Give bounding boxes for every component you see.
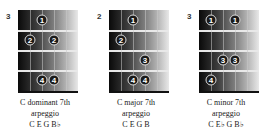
chord-subtitle: arpeggio [0,108,90,119]
arpeggio-diagram: 2 12344 C major 7th arpeggio C E G B [91,0,181,137]
string-line [121,10,122,91]
fret-line [199,70,259,72]
chord-title: C major 7th [91,97,181,108]
fret-line [109,30,169,32]
fret-number-label: 2 [97,12,101,21]
fret-line [199,50,259,52]
string-line [30,10,31,91]
finger-dot: 4 [49,75,60,86]
finger-dot: 1 [230,15,241,26]
chord-title: C dominant 7th [0,97,90,108]
fret-line [18,30,78,32]
string-line [157,10,158,91]
finger-dot: 4 [128,75,139,86]
finger-dot: 2 [25,35,36,46]
string-line [66,10,67,91]
chord-notes: C E G B [91,119,181,130]
fretboard-edge [109,91,169,93]
finger-dot: 4 [140,75,151,86]
fret-line [109,70,169,72]
finger-dot: 3 [140,55,151,66]
diagram-caption: C major 7th arpeggio C E G B [91,97,181,130]
finger-dot: 1 [128,15,139,26]
string-line [223,10,224,91]
string-line [247,10,248,91]
finger-dot: 3 [230,55,241,66]
fretboard: 12244 [18,10,78,91]
fretboard: 11334 [199,10,259,91]
fret-line [109,50,169,52]
chord-title: C minor 7th [181,97,271,108]
arpeggio-diagram: 3 12244 C dominant 7th arpeggio C E G B♭ [0,0,90,137]
fret-number-label: 3 [6,12,10,21]
finger-dot: 1 [206,15,217,26]
arpeggio-diagram: 3 11334 C minor 7th arpeggio C E♭ G B♭ [181,0,271,137]
fret-line [18,70,78,72]
finger-dot: 4 [37,75,48,86]
chord-notes: C E G B♭ [0,119,90,130]
chord-subtitle: arpeggio [181,108,271,119]
fretboard-edge [199,91,259,93]
fretboard: 12344 [109,10,169,91]
diagram-caption: C dominant 7th arpeggio C E G B♭ [0,97,90,130]
fretboard-edge [18,91,78,93]
fret-number-label: 3 [187,12,191,21]
finger-dot: 4 [206,75,217,86]
chord-notes: C E♭ G B♭ [181,119,271,130]
finger-dot: 2 [49,35,60,46]
finger-dot: 1 [37,15,48,26]
chord-subtitle: arpeggio [91,108,181,119]
diagram-caption: C minor 7th arpeggio C E♭ G B♭ [181,97,271,130]
finger-dot: 2 [116,35,127,46]
fret-line [199,30,259,32]
fret-line [18,50,78,52]
finger-dot: 3 [218,55,229,66]
